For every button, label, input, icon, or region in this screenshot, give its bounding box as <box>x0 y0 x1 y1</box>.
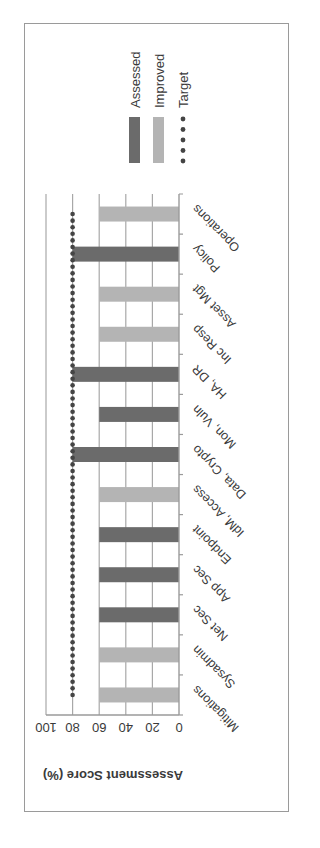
bar-assessed <box>99 527 179 542</box>
category-label: Asset Mgt <box>189 281 239 331</box>
legend-dot <box>181 138 186 143</box>
bar-assessed <box>99 407 179 422</box>
target-dot <box>70 390 75 395</box>
target-dot <box>70 324 75 329</box>
target-dot <box>70 594 75 599</box>
bar-assessed <box>73 247 179 262</box>
category-labels: MitigationsSysadminNet SecApp SecEndpoin… <box>189 202 249 735</box>
target-dot <box>70 403 75 408</box>
target-dot <box>70 271 75 276</box>
target-dot <box>70 627 75 632</box>
target-dot <box>70 449 75 454</box>
target-dot <box>70 686 75 691</box>
bar-improved <box>99 287 179 302</box>
legend-swatch-improved <box>153 117 164 163</box>
bar-assessed <box>73 367 179 382</box>
category-label: App Sec <box>189 562 232 605</box>
y-tick-label: 80 <box>65 720 79 735</box>
bar-assessed <box>99 567 179 582</box>
target-dot <box>70 225 75 230</box>
target-dot <box>70 330 75 335</box>
target-dot <box>70 647 75 652</box>
target-dot <box>70 574 75 579</box>
target-dot <box>70 258 75 263</box>
target-dot <box>70 640 75 645</box>
target-dot <box>70 436 75 441</box>
y-tick-label: 0 <box>175 720 182 735</box>
target-dot <box>70 488 75 493</box>
target-dot <box>70 653 75 658</box>
bar-improved <box>99 327 179 342</box>
target-dot <box>70 423 75 428</box>
y-tick-label: 100 <box>35 720 57 735</box>
target-dot <box>70 521 75 526</box>
y-tick-label: 40 <box>119 720 133 735</box>
category-label: Net Sec <box>189 602 230 643</box>
target-dot <box>70 396 75 401</box>
target-dot <box>70 660 75 665</box>
target-dot <box>70 482 75 487</box>
target-dot <box>70 304 75 309</box>
bar-improved <box>99 647 179 662</box>
target-dot <box>70 600 75 605</box>
target-dot <box>70 620 75 625</box>
y-tick-labels: 020406080100 <box>35 720 182 735</box>
target-dot <box>70 673 75 678</box>
category-label: HA, DR <box>189 362 229 402</box>
target-dot <box>70 587 75 592</box>
legend-dot <box>181 159 186 164</box>
legend-swatch-assessed <box>129 117 140 163</box>
target-dot <box>70 370 75 375</box>
target-dot <box>70 376 75 381</box>
target-dot <box>70 495 75 500</box>
target-dot <box>70 541 75 546</box>
target-dot <box>70 409 75 414</box>
category-label: Mitigations <box>189 683 241 735</box>
bar-improved <box>99 687 179 702</box>
target-dot <box>70 357 75 362</box>
bar-improved <box>99 207 179 222</box>
bar-chart: 020406080100 MitigationsSysadminNet SecA… <box>24 23 289 812</box>
target-dot <box>70 297 75 302</box>
legend: AssessedImprovedTarget <box>128 52 191 164</box>
bar-assessed <box>99 607 179 622</box>
target-dot <box>70 232 75 237</box>
y-tick-label: 20 <box>145 720 159 735</box>
target-dot <box>70 693 75 698</box>
target-dot <box>70 337 75 342</box>
target-dot <box>70 350 75 355</box>
target-dot <box>70 508 75 513</box>
target-dot <box>70 535 75 540</box>
target-dot <box>70 311 75 316</box>
target-dot <box>70 528 75 533</box>
target-dot <box>70 218 75 223</box>
target-dot <box>70 561 75 566</box>
target-dot <box>70 469 75 474</box>
target-dot <box>70 679 75 684</box>
target-dot <box>70 581 75 586</box>
target-dot <box>70 554 75 559</box>
y-tick-label: 60 <box>92 720 106 735</box>
target-dot <box>70 291 75 296</box>
target-dot <box>70 278 75 283</box>
legend-dot <box>181 117 186 122</box>
legend-label-assessed: Assessed <box>128 52 143 108</box>
target-dot <box>70 607 75 612</box>
target-dot <box>70 614 75 619</box>
target-dot <box>70 567 75 572</box>
legend-label-target: Target <box>176 71 191 108</box>
target-dot <box>70 238 75 243</box>
bar-improved <box>99 487 179 502</box>
category-label: Policy <box>189 241 223 275</box>
bar-assessed <box>73 447 179 462</box>
category-label: Sysadmin <box>189 643 238 692</box>
target-dot <box>70 515 75 520</box>
target-dot <box>70 455 75 460</box>
target-dot <box>70 284 75 289</box>
target-dot <box>70 548 75 553</box>
chart-canvas: 020406080100 MitigationsSysadminNet SecA… <box>25 22 290 811</box>
target-dot <box>70 245 75 250</box>
target-dot <box>70 317 75 322</box>
target-dot <box>70 442 75 447</box>
target-dot <box>70 383 75 388</box>
